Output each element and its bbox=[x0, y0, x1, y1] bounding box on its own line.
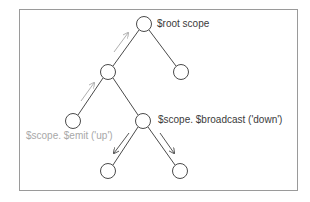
node-root-scope bbox=[137, 17, 152, 32]
node-l2-left bbox=[101, 65, 116, 80]
node-l4-right bbox=[173, 164, 188, 179]
node-l3-right bbox=[136, 114, 151, 129]
node-l3-left bbox=[66, 114, 81, 129]
edge-l2left-l3right bbox=[113, 78, 138, 115]
emit-label: $scope. $emit ('up') bbox=[26, 130, 113, 142]
edge-root-l2right bbox=[149, 30, 176, 66]
broadcast-down-arrow-icon bbox=[160, 133, 174, 153]
emit-up-arrow-icon bbox=[114, 33, 128, 52]
broadcast-label: $scope. $broadcast ('down') bbox=[158, 114, 282, 126]
tree-edges bbox=[78, 30, 176, 165]
scope-tree-diagram bbox=[0, 0, 310, 202]
edge-l2left-l3left bbox=[78, 78, 103, 115]
node-l4-left bbox=[101, 164, 116, 179]
edge-l3right-l4left bbox=[113, 127, 138, 165]
diagram-frame bbox=[20, 10, 298, 191]
broadcast-down-arrow-icon bbox=[114, 133, 129, 153]
node-l2-right bbox=[174, 65, 189, 80]
root-scope-label: $root scope bbox=[157, 18, 209, 30]
edge-l3right-l4right bbox=[148, 127, 175, 165]
emit-up-arrow-icon bbox=[81, 83, 94, 101]
